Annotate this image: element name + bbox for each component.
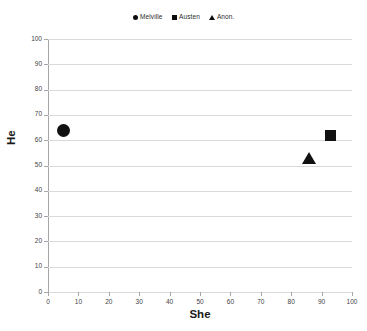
y-tick-mark [44, 39, 48, 40]
x-tick-label: 0 [33, 299, 63, 306]
data-point-melville[interactable] [57, 124, 70, 137]
x-tick-label: 10 [63, 299, 93, 306]
x-tick-mark [291, 292, 292, 296]
y-tick-label: 10 [12, 263, 42, 270]
triangle-marker-icon [209, 15, 215, 20]
y-tick-label: 0 [12, 289, 42, 296]
square-marker-icon [172, 15, 178, 21]
x-tick-mark [139, 292, 140, 296]
y-tick-label: 30 [12, 213, 42, 220]
x-axis-title: She [48, 309, 352, 321]
gridline-horizontal [48, 115, 352, 116]
x-tick-label: 60 [215, 299, 245, 306]
x-tick-label: 30 [124, 299, 154, 306]
y-tick-label: 80 [12, 86, 42, 93]
y-tick-mark [44, 166, 48, 167]
y-tick-label: 100 [12, 36, 42, 43]
x-tick-mark [48, 292, 49, 296]
y-tick-label: 20 [12, 238, 42, 245]
x-tick-mark [230, 292, 231, 296]
gridline-horizontal [48, 191, 352, 192]
gridline-horizontal [48, 216, 352, 217]
y-tick-label: 40 [12, 187, 42, 194]
y-tick-mark [44, 267, 48, 268]
x-tick-mark [322, 292, 323, 296]
legend-label: Austen [179, 14, 200, 21]
y-tick-mark [44, 64, 48, 65]
y-tick-mark [44, 191, 48, 192]
gridline-horizontal [48, 90, 352, 91]
x-tick-label: 50 [185, 299, 215, 306]
x-tick-mark [261, 292, 262, 296]
legend-item-melville[interactable]: Melville [133, 14, 163, 21]
x-tick-mark [170, 292, 171, 296]
circle-marker-icon [133, 15, 139, 21]
gridline-horizontal [48, 267, 352, 268]
x-tick-label: 80 [276, 299, 306, 306]
scatter-chart: Melville Austen Anon. 010203040506070809… [0, 0, 367, 331]
gridline-horizontal [48, 39, 352, 40]
x-tick-mark [352, 292, 353, 296]
y-tick-label: 50 [12, 162, 42, 169]
gridline-horizontal [48, 64, 352, 65]
gridline-horizontal [48, 241, 352, 242]
y-tick-mark [44, 115, 48, 116]
gridline-horizontal [48, 140, 352, 141]
y-tick-mark [44, 216, 48, 217]
legend-label: Melville [140, 14, 162, 21]
x-tick-mark [200, 292, 201, 296]
y-tick-label: 70 [12, 111, 42, 118]
y-tick-label: 90 [12, 61, 42, 68]
y-tick-mark [44, 241, 48, 242]
data-point-anon[interactable] [302, 152, 316, 164]
y-tick-mark [44, 90, 48, 91]
x-tick-label: 20 [94, 299, 124, 306]
chart-legend: Melville Austen Anon. [0, 14, 367, 21]
x-tick-label: 70 [246, 299, 276, 306]
y-axis-title: He [6, 130, 18, 145]
y-tick-mark [44, 140, 48, 141]
legend-item-anon[interactable]: Anon. [209, 14, 235, 21]
x-tick-label: 90 [307, 299, 337, 306]
gridline-horizontal [48, 166, 352, 167]
x-tick-label: 100 [337, 299, 367, 306]
x-tick-label: 40 [155, 299, 185, 306]
legend-item-austen[interactable]: Austen [172, 14, 200, 21]
legend-label: Anon. [217, 14, 235, 21]
data-point-austen[interactable] [325, 130, 336, 141]
x-tick-mark [109, 292, 110, 296]
plot-area [48, 39, 352, 292]
x-tick-mark [78, 292, 79, 296]
